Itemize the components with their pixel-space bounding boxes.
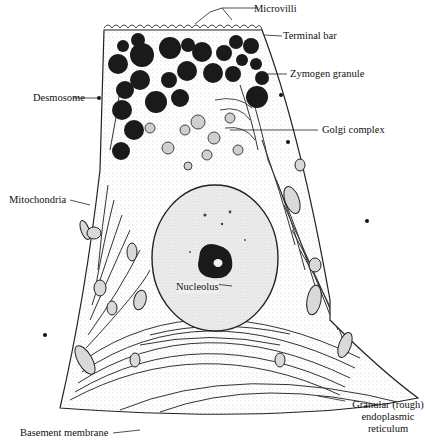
- label-golgi-complex: Golgi complex: [322, 124, 385, 136]
- cell-diagram: Microvilli Terminal bar Zymogen granule …: [0, 0, 430, 446]
- label-granular-er-line3: reticulum: [346, 423, 430, 435]
- label-microvilli: Microvilli: [254, 3, 297, 15]
- microvilli-shape: [104, 25, 262, 30]
- label-zymogen-granule: Zymogen granule: [290, 68, 364, 80]
- label-granular-er-line1: Granular (rough): [346, 399, 430, 411]
- cell-illustration: [0, 0, 430, 446]
- label-mitochondria: Mitochondria: [9, 194, 66, 206]
- label-terminal-bar: Terminal bar: [283, 30, 337, 42]
- label-basement-membrane: Basement membrane: [20, 427, 108, 439]
- label-desmosome: Desmosome: [33, 92, 85, 104]
- label-granular-er: Granular (rough) endoplasmic reticulum: [346, 399, 430, 435]
- label-granular-er-line2: endoplasmic: [346, 411, 430, 423]
- label-nucleolus: Nucleolus: [176, 281, 219, 293]
